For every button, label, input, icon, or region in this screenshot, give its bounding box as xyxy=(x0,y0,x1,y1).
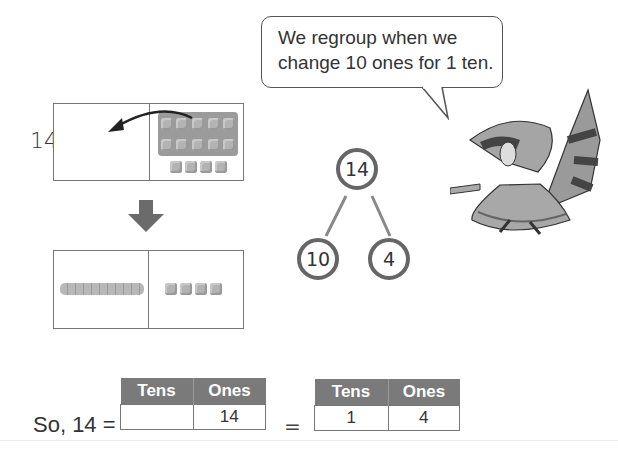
curved-arrow-icon xyxy=(100,106,195,136)
table1-ones-value[interactable]: 14 xyxy=(193,405,266,430)
whole-value: 14 xyxy=(345,158,369,180)
bottom-place-value-box xyxy=(53,250,244,329)
number-bond-part-1: 10 xyxy=(297,238,339,280)
place-value-table-2: Tens Ones 1 4 xyxy=(314,379,460,431)
table2-header-ones: Ones xyxy=(388,379,460,406)
place-value-table-1: Tens Ones 14 xyxy=(120,378,266,430)
number-bond-whole: 14 xyxy=(336,148,378,190)
equals-sign: = xyxy=(284,414,301,438)
loose-cubes-bottom xyxy=(165,283,222,295)
raccoon-illustration-icon xyxy=(450,80,615,240)
speech-bubble: We regroup when we change 10 ones for 1 … xyxy=(261,16,503,88)
number-bond-part-2: 4 xyxy=(368,238,410,280)
table1-header-tens: Tens xyxy=(121,378,194,405)
loose-cubes xyxy=(170,161,227,173)
bottom-tens-cell xyxy=(54,251,148,328)
table1-header-ones: Ones xyxy=(193,378,266,405)
part-1-value: 10 xyxy=(306,248,330,270)
ten-rod xyxy=(60,283,144,295)
part-2-value: 4 xyxy=(383,248,395,270)
table2-header-tens: Tens xyxy=(315,379,389,406)
speech-line-2: change 10 ones for 1 ten. xyxy=(278,50,502,75)
table2-tens-value[interactable]: 1 xyxy=(315,406,389,431)
down-arrow-icon xyxy=(128,200,164,234)
equation-prefix: So, 14 = xyxy=(33,412,116,438)
speech-line-1: We regroup when we xyxy=(278,25,502,50)
table2-ones-value[interactable]: 4 xyxy=(388,406,460,431)
bottom-ones-cell xyxy=(148,251,243,328)
table1-tens-value[interactable] xyxy=(121,405,194,430)
divider xyxy=(0,440,618,441)
